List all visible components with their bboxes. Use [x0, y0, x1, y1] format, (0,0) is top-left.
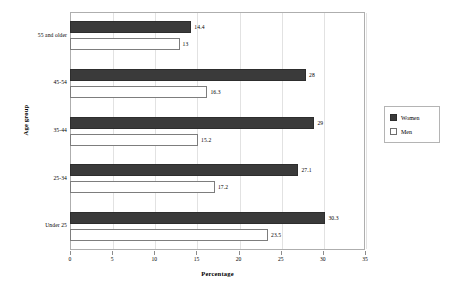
legend: Women Men: [384, 106, 440, 143]
x-axis-tick-label: 30: [310, 256, 336, 262]
y-axis-category-label: Under 25: [0, 222, 67, 228]
bar-value-label: 30.3: [328, 212, 338, 224]
legend-swatch-women-icon: [390, 114, 397, 121]
x-axis-tick-label: 5: [99, 256, 125, 262]
bar-value-label: 15.2: [201, 134, 211, 146]
x-axis-tick: [196, 251, 197, 255]
y-axis-category-label: 55 and older: [0, 32, 67, 38]
legend-label-women: Women: [401, 115, 420, 121]
y-axis-category-label: 25-34: [0, 175, 67, 181]
bar-women: [70, 69, 306, 81]
x-axis-tick: [154, 251, 155, 255]
bar-men: [70, 181, 215, 193]
x-axis-tick-label: 20: [226, 256, 252, 262]
bar-value-label: 28: [309, 69, 315, 81]
bar-value-label: 29: [317, 117, 323, 129]
x-axis-tick: [365, 251, 366, 255]
bar-women: [70, 21, 191, 33]
x-axis-tick: [323, 251, 324, 255]
bar-chart: Age group 0510152025303555 and older14.4…: [0, 0, 451, 288]
x-axis-title: Percentage: [70, 270, 365, 277]
legend-label-men: Men: [401, 129, 412, 135]
bar-women: [70, 117, 314, 129]
bar-value-label: 17.2: [218, 181, 228, 193]
bar-women: [70, 164, 298, 176]
x-axis-tick: [239, 251, 240, 255]
y-axis-category-label: 45-54: [0, 79, 67, 85]
x-axis-tick-label: 15: [183, 256, 209, 262]
bar-value-label: 23.5: [271, 229, 281, 241]
bar-men: [70, 134, 198, 146]
x-axis-tick-label: 25: [268, 256, 294, 262]
bar-value-label: 14.4: [194, 21, 204, 33]
x-axis-tick: [70, 251, 71, 255]
bar-value-label: 13: [183, 38, 189, 50]
x-axis-tick: [281, 251, 282, 255]
x-axis-tick-label: 0: [57, 256, 83, 262]
bar-value-label: 27.1: [301, 164, 311, 176]
bar-women: [70, 212, 325, 224]
x-axis-tick: [112, 251, 113, 255]
bar-men: [70, 86, 207, 98]
legend-entry-women: Women: [390, 112, 435, 123]
legend-entry-men: Men: [390, 126, 435, 137]
legend-swatch-men-icon: [390, 128, 397, 135]
bar-value-label: 16.3: [210, 86, 220, 98]
bar-men: [70, 38, 180, 50]
x-axis-tick-label: 35: [352, 256, 378, 262]
y-axis-title: Age group: [22, 80, 29, 160]
x-axis-tick-label: 10: [141, 256, 167, 262]
y-axis-category-label: 35-44: [0, 127, 67, 133]
bar-men: [70, 229, 268, 241]
gridline-vertical: [366, 13, 367, 249]
